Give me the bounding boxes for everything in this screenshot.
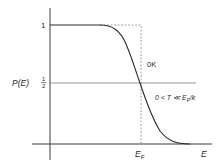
y-tick-one: 1 <box>41 21 46 30</box>
zero-kelvin-step <box>100 25 141 144</box>
y-tick-half-num: 1 <box>42 76 46 82</box>
y-tick-half-den: 2 <box>42 83 46 89</box>
fermi-dirac-curve <box>50 25 190 144</box>
label-finite-t: 0 < T ≪ EF/k <box>155 94 196 103</box>
x-tick-fermi: EF <box>135 149 145 160</box>
label-0k: 0K <box>147 60 156 69</box>
y-axis-label: P(E) <box>12 78 29 88</box>
fermi-dirac-diagram: 1 1 2 P(E) EF E 0K 0 < T ≪ EF/k <box>0 0 222 168</box>
x-axis-label: E <box>201 149 207 159</box>
